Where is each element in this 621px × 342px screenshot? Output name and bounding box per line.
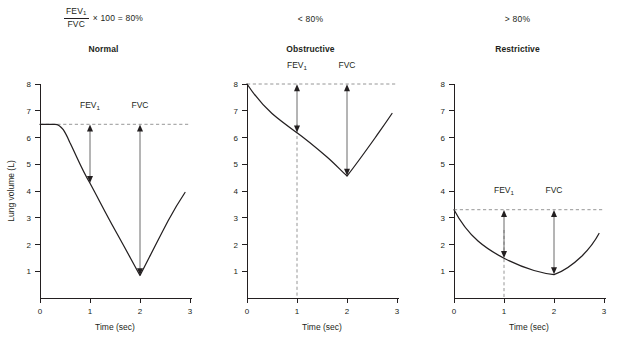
x-tick-labels-obstructive: 0 1 2 3 xyxy=(245,307,400,316)
svg-text:2: 2 xyxy=(441,241,446,250)
curve-restrictive xyxy=(454,210,599,275)
panel-normal-criterion: FEV1 FVC × 100 = 80% xyxy=(0,6,207,30)
panel-normal-header: FEV1 FVC × 100 = 80% Normal xyxy=(0,0,207,62)
fev1-label-normal: FEV1 xyxy=(80,100,101,111)
svg-text:8: 8 xyxy=(234,80,239,89)
x-axis-title-normal: Time (sec) xyxy=(95,322,135,332)
panel-restrictive: > 80% Restrictive 8 7 6 5 4 xyxy=(414,0,621,342)
svg-text:3: 3 xyxy=(188,307,193,316)
svg-text:8: 8 xyxy=(27,80,32,89)
y-ticks-normal xyxy=(35,84,40,271)
x-ticks-restrictive xyxy=(454,298,604,303)
svg-text:4: 4 xyxy=(27,187,32,196)
curve-normal xyxy=(40,124,185,275)
svg-text:8: 8 xyxy=(441,80,446,89)
svg-text:6: 6 xyxy=(441,134,446,143)
fvc-label-obstructive: FVC xyxy=(339,62,356,70)
svg-text:0: 0 xyxy=(245,307,250,316)
svg-text:2: 2 xyxy=(138,307,143,316)
svg-text:1: 1 xyxy=(88,307,93,316)
curve-obstructive xyxy=(247,84,392,176)
svg-text:3: 3 xyxy=(234,214,239,223)
y-tick-labels-obstructive: 8 7 6 5 4 3 2 1 xyxy=(234,80,239,276)
fev1-fvc-fraction: FEV1 FVC xyxy=(64,7,89,30)
panel-restrictive-title: Restrictive xyxy=(414,44,621,54)
fvc-measure-restrictive xyxy=(551,210,557,274)
svg-text:5: 5 xyxy=(441,160,446,169)
fraction-denominator: FVC xyxy=(65,19,87,30)
x-tick-labels-normal: 0 1 2 3 xyxy=(38,307,193,316)
svg-text:3: 3 xyxy=(441,214,446,223)
y-ticks-obstructive xyxy=(242,84,247,271)
svg-text:4: 4 xyxy=(441,187,446,196)
panel-restrictive-header: > 80% Restrictive xyxy=(414,0,621,62)
svg-text:2: 2 xyxy=(234,241,239,250)
svg-text:6: 6 xyxy=(234,134,239,143)
svg-text:2: 2 xyxy=(552,307,557,316)
fev1-subscript: 1 xyxy=(83,9,87,16)
x-axis-title-restrictive: Time (sec) xyxy=(509,322,549,332)
spirometry-figure: FEV1 FVC × 100 = 80% Normal xyxy=(0,0,621,342)
y-ticks-restrictive xyxy=(449,84,454,271)
panel-obstructive: < 80% Obstructive 8 7 6 5 4 xyxy=(207,0,414,342)
fev1-measure-restrictive xyxy=(501,210,507,258)
svg-text:7: 7 xyxy=(441,107,446,116)
fev1-measure-obstructive xyxy=(294,84,300,132)
plot-restrictive: 8 7 6 5 4 3 2 1 0 1 2 3 Time (sec xyxy=(414,62,621,342)
svg-text:7: 7 xyxy=(27,107,32,116)
fvc-measure-normal xyxy=(137,125,143,276)
svg-text:2: 2 xyxy=(27,241,32,250)
svg-text:1: 1 xyxy=(441,267,446,276)
svg-text:5: 5 xyxy=(27,160,32,169)
fev1-label-obstructive: FEV1 xyxy=(287,62,308,71)
fev1-measure-normal xyxy=(87,125,93,184)
x-ticks-obstructive xyxy=(247,298,397,303)
svg-text:1: 1 xyxy=(27,267,32,276)
svg-text:0: 0 xyxy=(38,307,43,316)
svg-text:5: 5 xyxy=(234,160,239,169)
fev1-label-restrictive: FEV1 xyxy=(494,185,515,196)
panel-normal: FEV1 FVC × 100 = 80% Normal xyxy=(0,0,207,342)
svg-text:4: 4 xyxy=(234,187,239,196)
svg-text:2: 2 xyxy=(345,307,350,316)
formula-tail: × 100 = 80% xyxy=(93,14,143,23)
fvc-measure-obstructive xyxy=(344,84,350,175)
x-tick-labels-restrictive: 0 1 2 3 xyxy=(452,307,607,316)
plot-normal: 8 7 6 5 4 3 2 1 0 1 2 3 Ti xyxy=(0,62,207,342)
y-tick-labels-normal: 8 7 6 5 4 3 2 1 xyxy=(27,80,32,276)
fvc-label-normal: FVC xyxy=(132,100,149,110)
svg-text:1: 1 xyxy=(234,267,239,276)
svg-text:3: 3 xyxy=(27,214,32,223)
panel-normal-title: Normal xyxy=(0,44,207,54)
svg-text:0: 0 xyxy=(452,307,457,316)
fraction-numerator: FEV1 xyxy=(64,7,89,19)
svg-text:3: 3 xyxy=(602,307,607,316)
y-tick-labels-restrictive: 8 7 6 5 4 3 2 1 xyxy=(441,80,446,276)
svg-text:7: 7 xyxy=(234,107,239,116)
x-ticks-normal xyxy=(40,298,190,303)
y-axis-title: Lung volume (L) xyxy=(6,160,16,222)
x-axis-title-obstructive: Time (sec) xyxy=(302,322,342,332)
svg-text:6: 6 xyxy=(27,134,32,143)
plot-obstructive: 8 7 6 5 4 3 2 1 0 1 2 3 Time (sec xyxy=(207,62,414,342)
panel-obstructive-title: Obstructive xyxy=(207,44,414,54)
fvc-label-restrictive: FVC xyxy=(546,185,563,195)
panel-obstructive-criterion: < 80% xyxy=(207,14,414,24)
svg-text:1: 1 xyxy=(502,307,507,316)
panel-restrictive-criterion: > 80% xyxy=(414,14,621,24)
svg-text:1: 1 xyxy=(295,307,300,316)
svg-text:3: 3 xyxy=(395,307,400,316)
panel-obstructive-header: < 80% Obstructive xyxy=(207,0,414,62)
